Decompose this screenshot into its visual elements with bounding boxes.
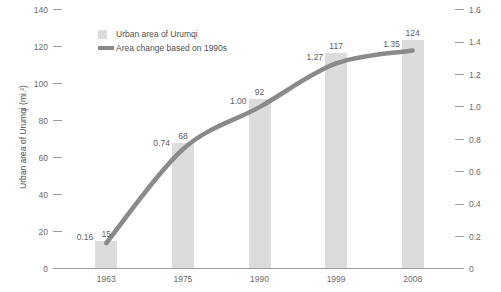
- right-tick-0.6: 0.6: [455, 166, 501, 178]
- left-tick-20: 20: [18, 226, 62, 238]
- right-tick-1.4: 1.4: [455, 36, 501, 48]
- plot-area: 1568921171240.160.741.001.271.35: [68, 10, 451, 269]
- x-tick-2008: 2008: [388, 273, 438, 285]
- left-tick-140: 140: [18, 4, 62, 16]
- left-tick-120: 120: [18, 41, 62, 53]
- bar-value-label-2008: 124: [393, 28, 433, 38]
- right-tick-1.0: 1.0: [455, 101, 501, 113]
- x-tick-1999: 1999: [311, 273, 361, 285]
- right-tick-1.6: 1.6: [455, 4, 501, 16]
- line-value-label-1990: 1.00: [213, 96, 247, 106]
- chart-figure: 020406080100120140 00.20.40.60.81.01.21.…: [0, 0, 501, 292]
- line-value-label-2008: 1.35: [366, 39, 400, 49]
- x-tick-1975: 1975: [158, 273, 208, 285]
- line-value-label-1963: 0.16: [59, 232, 93, 242]
- right-tick-0: 0: [455, 263, 501, 275]
- line-value-label-1999: 1.27: [289, 52, 323, 62]
- right-tick-0.8: 0.8: [455, 134, 501, 146]
- right-tick-0.2: 0.2: [455, 231, 501, 243]
- right-tick-1.2: 1.2: [455, 69, 501, 81]
- x-axis-line: [60, 268, 464, 269]
- left-tick-0: 0: [18, 263, 62, 275]
- y-axis-title: Urban area of Urumqi (mi.²): [18, 62, 28, 212]
- x-tick-1963: 1963: [81, 273, 131, 285]
- right-tick-0.4: 0.4: [455, 198, 501, 210]
- x-tick-1990: 1990: [235, 273, 285, 285]
- bar-value-label-1999: 117: [316, 41, 356, 51]
- line-value-label-1975: 0.74: [136, 138, 170, 148]
